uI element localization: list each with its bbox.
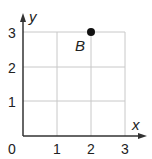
tick-x1: 1 (53, 141, 61, 157)
tick-y3: 3 (8, 25, 16, 41)
x-axis-label: x (131, 116, 140, 133)
tick-x3: 3 (121, 141, 129, 157)
coordinate-grid-chart: B y x 0 1 2 3 3 2 1 (0, 0, 152, 159)
tick-x2: 2 (87, 141, 95, 157)
point-b-label: B (75, 37, 85, 54)
grid (23, 32, 125, 136)
tick-y2: 2 (8, 60, 16, 76)
tick-y1: 1 (8, 94, 16, 110)
y-axis-arrow-icon (20, 13, 26, 22)
point-b-marker (87, 28, 95, 36)
tick-origin: 0 (8, 141, 16, 157)
y-axis-label: y (28, 8, 38, 25)
x-axis-arrow-icon (138, 133, 147, 139)
